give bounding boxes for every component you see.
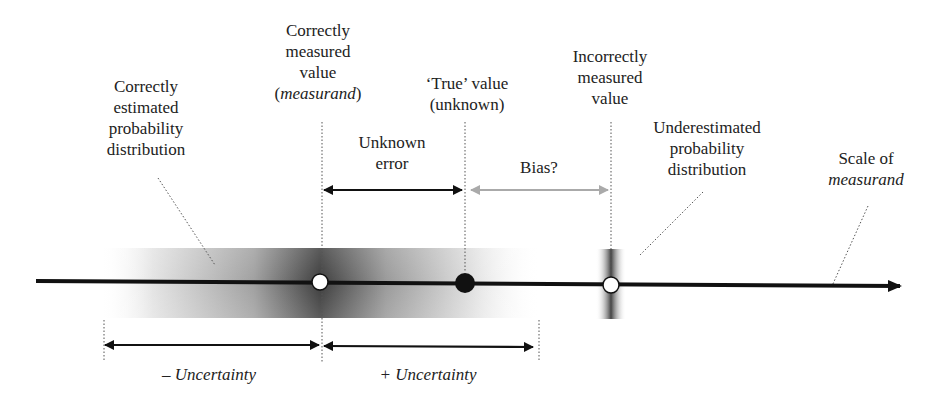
true-value-label: ‘True’ value (unknown) (426, 73, 509, 115)
correctly-estimated-distribution-label: Correctly estimated probability distribu… (107, 76, 185, 160)
correctly-measured-value-label: Correctly measured value (measurand) (275, 20, 362, 104)
correctly-measured-value-marker (312, 274, 328, 290)
plus-uncertainty-arrow (324, 346, 533, 347)
scale-of-measurand-label: Scale of measurand (828, 148, 904, 190)
incorrectly-measured-value-label: Incorrectly measured value (573, 46, 648, 109)
plus-uncertainty-label: + Uncertainty (380, 364, 477, 385)
bias-label: Bias? (520, 157, 558, 178)
underestimated-distribution-label: Underestimated probability distribution (653, 117, 761, 180)
unknown-error-label: Unknown error (358, 132, 425, 174)
true-value-marker (455, 273, 475, 293)
diagram-canvas (0, 0, 952, 405)
incorrectly-measured-value-marker (603, 277, 619, 293)
minus-uncertainty-label: – Uncertainty (162, 364, 256, 385)
